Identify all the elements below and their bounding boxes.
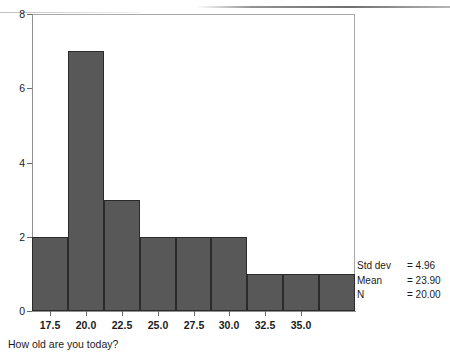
histogram-bar <box>319 274 355 311</box>
x-axis-tick <box>122 311 123 316</box>
y-axis-tick-label: 0 <box>3 306 25 316</box>
x-axis-tick <box>86 311 87 316</box>
histogram-bar <box>32 237 68 311</box>
statistics-label: Mean <box>357 274 407 289</box>
x-axis-tick <box>301 311 302 316</box>
x-axis-tick <box>265 311 266 316</box>
statistics-value: = 4.96 <box>407 259 449 274</box>
histogram-bar <box>283 274 319 311</box>
statistics-row: N= 20.00 <box>357 288 449 303</box>
y-axis-labels: 02468 <box>0 0 25 362</box>
y-axis-tick-label: 2 <box>3 232 25 242</box>
histogram-bar <box>247 274 283 311</box>
y-axis-tick-label: 4 <box>3 158 25 168</box>
y-axis-tick-label: 8 <box>3 9 25 19</box>
histogram-bar <box>140 237 176 311</box>
x-axis-tick <box>194 311 195 316</box>
x-axis-tick <box>50 311 51 316</box>
statistics-label: Std dev <box>357 259 407 274</box>
statistics-label: N <box>357 288 407 303</box>
statistics-value: = 20.00 <box>407 288 449 303</box>
x-axis-title: How old are you today? <box>8 338 118 350</box>
statistics-row: Mean= 23.90 <box>357 274 449 289</box>
histogram-chart: 02468 17.520.022.525.027.530.032.535.0 H… <box>0 0 450 362</box>
x-axis-tick <box>158 311 159 316</box>
y-axis-tick <box>27 163 32 164</box>
histogram-bar <box>104 200 140 311</box>
x-axis-tick-label: 35.0 <box>279 319 323 331</box>
y-axis-tick <box>27 237 32 238</box>
y-axis-tick <box>27 14 32 15</box>
bars-container <box>32 14 355 311</box>
histogram-bar <box>211 237 247 311</box>
y-axis-tick <box>27 311 32 312</box>
y-axis-tick <box>27 88 32 89</box>
x-axis-tick <box>229 311 230 316</box>
histogram-bar <box>176 237 212 311</box>
histogram-bar <box>68 51 104 311</box>
statistics-value: = 23.90 <box>407 274 449 289</box>
statistics-row: Std dev= 4.96 <box>357 259 449 274</box>
y-axis-tick-label: 6 <box>3 83 25 93</box>
statistics-annotation: Std dev= 4.96Mean= 23.90N= 20.00 <box>357 259 449 303</box>
